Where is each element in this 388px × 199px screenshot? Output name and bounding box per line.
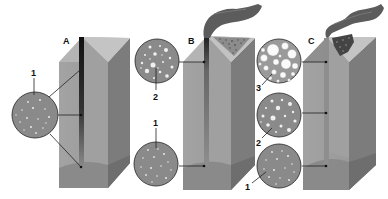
block-a-conduit xyxy=(79,37,84,167)
inset-circle xyxy=(12,92,58,138)
panel-label-b: B xyxy=(188,36,195,46)
inset-number: 3 xyxy=(256,83,261,93)
block-c-plume-icon xyxy=(325,4,384,38)
panel-a: A xyxy=(59,36,130,188)
inset-number: 1 xyxy=(245,182,250,192)
panel-b: B xyxy=(183,4,262,190)
block-b-plume-icon xyxy=(203,4,262,38)
inset-circle xyxy=(257,144,301,188)
block-c-conduit xyxy=(324,38,329,166)
inset-number: 1 xyxy=(31,68,36,78)
inset-number: 2 xyxy=(256,138,261,148)
inset-circle xyxy=(134,142,178,186)
volcanic-conduit-diagram: A 1 xyxy=(0,0,388,199)
panel-label-c: C xyxy=(308,36,315,46)
inset-circle xyxy=(135,39,179,83)
inset-number: 2 xyxy=(153,92,158,102)
inset-number: 1 xyxy=(153,118,158,128)
panel-label-a: A xyxy=(63,36,70,46)
panel-c: C xyxy=(303,4,384,190)
block-b-conduit xyxy=(204,38,209,166)
